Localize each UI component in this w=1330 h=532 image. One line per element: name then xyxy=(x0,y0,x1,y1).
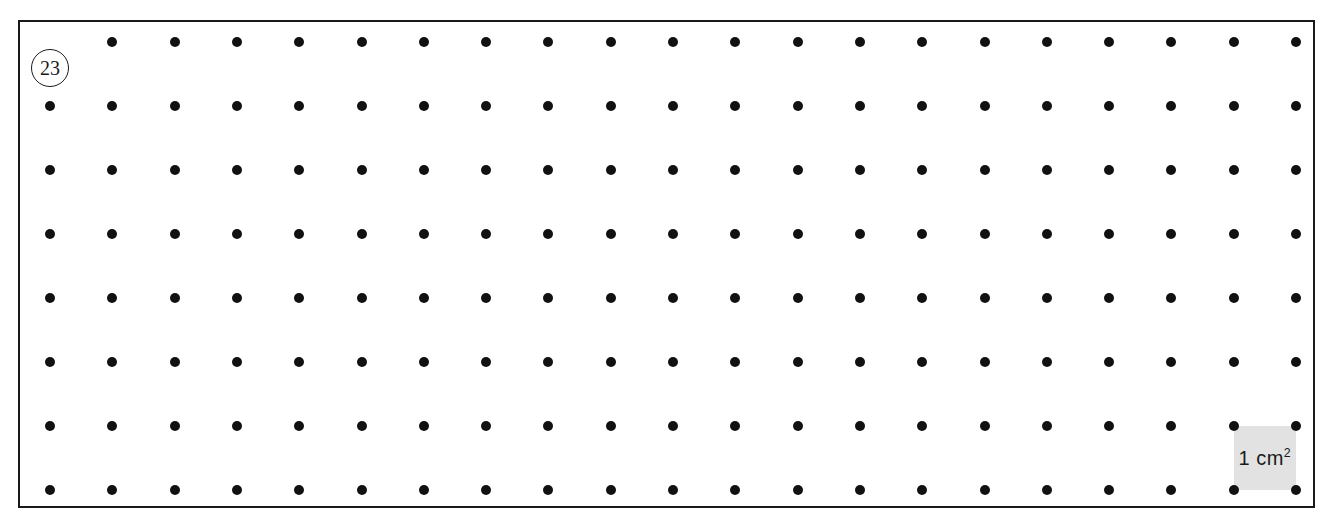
grid-dot xyxy=(357,421,367,431)
grid-dot xyxy=(419,293,429,303)
grid-dot xyxy=(730,229,740,239)
grid-dot xyxy=(917,357,927,367)
grid-dot xyxy=(107,485,117,495)
grid-dot xyxy=(357,293,367,303)
grid-dot xyxy=(543,485,553,495)
problem-number-badge: 23 xyxy=(31,49,69,87)
grid-dot xyxy=(1104,485,1114,495)
grid-dot xyxy=(1229,101,1239,111)
grid-dot xyxy=(855,421,865,431)
grid-dot xyxy=(170,101,180,111)
grid-dot xyxy=(1291,229,1301,239)
grid-dot xyxy=(980,357,990,367)
grid-dot xyxy=(294,357,304,367)
grid-dot xyxy=(294,101,304,111)
grid-dot xyxy=(1166,37,1176,47)
grid-dot xyxy=(170,485,180,495)
grid-dot xyxy=(917,421,927,431)
grid-dot xyxy=(730,37,740,47)
grid-dot xyxy=(980,37,990,47)
grid-dot xyxy=(1166,293,1176,303)
grid-dot xyxy=(668,293,678,303)
grid-dot xyxy=(170,357,180,367)
grid-dot xyxy=(668,37,678,47)
grid-dot xyxy=(107,37,117,47)
grid-dot xyxy=(170,293,180,303)
grid-dot xyxy=(793,165,803,175)
grid-dot xyxy=(294,37,304,47)
grid-dot xyxy=(232,293,242,303)
grid-dot xyxy=(45,357,55,367)
grid-dot xyxy=(419,229,429,239)
grid-dot xyxy=(294,421,304,431)
dot-grid xyxy=(0,0,1330,532)
grid-dot xyxy=(232,485,242,495)
grid-dot xyxy=(543,421,553,431)
grid-dot xyxy=(730,357,740,367)
grid-dot xyxy=(1166,101,1176,111)
grid-dot xyxy=(855,229,865,239)
grid-dot xyxy=(1104,421,1114,431)
grid-dot xyxy=(1229,357,1239,367)
grid-dot xyxy=(357,357,367,367)
grid-dot xyxy=(917,165,927,175)
grid-dot xyxy=(1104,37,1114,47)
grid-dot xyxy=(980,421,990,431)
grid-dot xyxy=(668,421,678,431)
grid-dot xyxy=(45,165,55,175)
grid-dot xyxy=(1042,357,1052,367)
grid-dot xyxy=(170,165,180,175)
grid-dot xyxy=(107,101,117,111)
grid-dot xyxy=(419,421,429,431)
grid-dot xyxy=(606,229,616,239)
grid-dot xyxy=(855,101,865,111)
grid-dot xyxy=(730,101,740,111)
grid-dot xyxy=(232,229,242,239)
grid-dot xyxy=(232,101,242,111)
grid-dot xyxy=(107,165,117,175)
grid-dot xyxy=(1229,421,1239,431)
grid-dot xyxy=(793,357,803,367)
grid-dot xyxy=(294,293,304,303)
grid-dot xyxy=(1166,229,1176,239)
grid-dot xyxy=(855,485,865,495)
worksheet-page: 1 cm2 23 xyxy=(0,0,1330,532)
grid-dot xyxy=(1042,485,1052,495)
grid-dot xyxy=(357,229,367,239)
grid-dot xyxy=(107,229,117,239)
grid-dot xyxy=(232,165,242,175)
grid-dot xyxy=(917,37,927,47)
grid-dot xyxy=(606,421,616,431)
grid-dot xyxy=(980,229,990,239)
grid-dot xyxy=(1104,357,1114,367)
grid-dot xyxy=(419,165,429,175)
grid-dot xyxy=(793,101,803,111)
grid-dot xyxy=(1291,485,1301,495)
grid-dot xyxy=(232,421,242,431)
grid-dot xyxy=(232,357,242,367)
grid-dot xyxy=(357,37,367,47)
grid-dot xyxy=(419,37,429,47)
grid-dot xyxy=(730,421,740,431)
problem-number-label: 23 xyxy=(40,58,60,78)
grid-dot xyxy=(1104,101,1114,111)
grid-dot xyxy=(793,229,803,239)
grid-dot xyxy=(543,37,553,47)
grid-dot xyxy=(357,485,367,495)
grid-dot xyxy=(730,165,740,175)
grid-dot xyxy=(1104,293,1114,303)
grid-dot xyxy=(1229,165,1239,175)
grid-dot xyxy=(855,37,865,47)
grid-dot xyxy=(232,37,242,47)
grid-dot xyxy=(793,421,803,431)
grid-dot xyxy=(481,293,491,303)
grid-dot xyxy=(1042,421,1052,431)
grid-dot xyxy=(481,37,491,47)
grid-dot xyxy=(543,293,553,303)
grid-dot xyxy=(917,293,927,303)
grid-dot xyxy=(543,229,553,239)
grid-dot xyxy=(917,101,927,111)
grid-dot xyxy=(606,357,616,367)
grid-dot xyxy=(45,485,55,495)
grid-dot xyxy=(855,165,865,175)
